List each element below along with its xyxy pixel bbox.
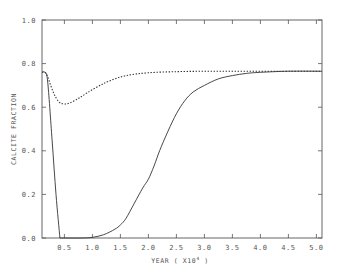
series-line-solid-drop (42, 72, 60, 238)
chart: 0.51.01.52.02.53.03.54.04.55.0 0.00.20.4… (0, 0, 338, 280)
x-tick-label: 3.5 (225, 244, 239, 252)
y-tick-label: 0.6 (22, 104, 36, 112)
x-axis-label: YEAR ( X104 ) (151, 256, 208, 265)
y-axis-label: CALCITE FRACTION (10, 93, 18, 165)
series-group (42, 71, 322, 238)
x-tick-label: 1.0 (85, 244, 99, 252)
y-tick-label: 0.2 (22, 191, 36, 199)
series-line-solid-recovery (60, 71, 322, 238)
series-line-dashed (42, 71, 322, 104)
x-axis-ticks: 0.51.01.52.02.53.03.54.04.55.0 (57, 20, 323, 252)
y-axis-ticks: 0.00.20.40.60.81.0 (22, 17, 322, 243)
x-tick-label: 5.0 (309, 244, 323, 252)
plot-frame (42, 20, 322, 238)
y-tick-label: 0.4 (22, 147, 36, 155)
x-tick-label: 0.5 (57, 244, 71, 252)
x-tick-label: 4.5 (281, 244, 295, 252)
y-tick-label: 0.0 (22, 235, 36, 243)
x-tick-label: 2.0 (141, 244, 155, 252)
y-tick-label: 1.0 (22, 17, 36, 25)
y-tick-label: 0.8 (22, 60, 36, 68)
plot-border (42, 20, 322, 238)
x-tick-label: 1.5 (113, 244, 127, 252)
x-tick-label: 3.0 (197, 244, 211, 252)
x-tick-label: 2.5 (169, 244, 183, 252)
x-tick-label: 4.0 (253, 244, 267, 252)
